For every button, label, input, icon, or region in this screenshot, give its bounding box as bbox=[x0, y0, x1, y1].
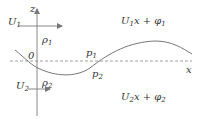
rho2-label: ρ2 bbox=[41, 77, 53, 90]
interface-curve bbox=[15, 41, 192, 75]
z-label: z bbox=[29, 3, 36, 14]
rho1-label: ρ1 bbox=[41, 34, 52, 47]
upper-potential-label: U1x + φ1 bbox=[121, 15, 166, 28]
p2-label: p2 bbox=[92, 68, 103, 81]
x-label: x bbox=[186, 64, 192, 75]
u2-label: U2 bbox=[16, 80, 29, 93]
u1-label: U1 bbox=[8, 16, 21, 29]
diagram-canvas: z x 0 U1 ρ1 p1 U1x + φ1 U2 ρ2 p2 U2x + φ… bbox=[0, 0, 202, 119]
p1-label: p1 bbox=[86, 47, 97, 60]
lower-potential-label: U2x + φ2 bbox=[121, 91, 166, 104]
interface-diagram: z x 0 U1 ρ1 p1 U1x + φ1 U2 ρ2 p2 U2x + φ… bbox=[0, 0, 202, 119]
origin-label: 0 bbox=[28, 50, 35, 61]
